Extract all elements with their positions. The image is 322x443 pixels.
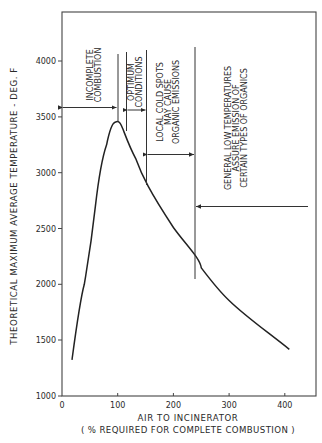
svg-text:0: 0 — [59, 401, 64, 410]
svg-text:100: 100 — [110, 401, 125, 410]
svg-text:300: 300 — [221, 401, 236, 410]
svg-text:200: 200 — [166, 401, 181, 410]
svg-text:CERTAIN TYPES OF ORGANICS: CERTAIN TYPES OF ORGANICS — [240, 68, 249, 188]
annotation-local-cold-spots: LOCAL COLD SPOTS MAY CAUSE ORGANIC EMISS… — [148, 47, 196, 279]
svg-text:400: 400 — [277, 401, 292, 410]
x-axis-tick-labels: 0 100 200 300 400 — [59, 401, 292, 410]
annotation-general-low-temperatures: GENERAL LOW TEMPERATURES ASSURE EMISSION… — [196, 66, 308, 207]
x-axis-subtitle: ( % REQUIRED FOR COMPLETE COMBUSTION ) — [81, 425, 295, 435]
annotation-optimum-conditions: OPTIMUM CONDITIONS — [127, 50, 147, 185]
temperature-curve — [72, 122, 289, 360]
svg-text:3000: 3000 — [36, 169, 56, 178]
svg-text:CONDITIONS: CONDITIONS — [135, 57, 144, 108]
svg-text:4000: 4000 — [36, 57, 56, 66]
svg-text:2500: 2500 — [36, 225, 56, 234]
y-axis-ticks — [58, 61, 62, 396]
svg-text:ORGANIC EMISSIONS: ORGANIC EMISSIONS — [172, 60, 181, 144]
temperature-chart: 1000 1500 2000 2500 3000 3500 4000 0 100… — [0, 0, 322, 443]
svg-text:COMBUSTION: COMBUSTION — [94, 48, 103, 103]
y-axis-tick-labels: 1000 1500 2000 2500 3000 3500 4000 — [36, 57, 56, 401]
y-axis-title: THEORETICAL MAXIMUM AVERAGE TEMPERATURE … — [9, 67, 19, 345]
x-axis-title: AIR TO INCINERATOR — [138, 413, 239, 423]
svg-text:3500: 3500 — [36, 113, 56, 122]
annotation-incomplete-combustion: INCOMPLETE COMBUSTION — [63, 48, 118, 122]
svg-text:2000: 2000 — [36, 280, 56, 289]
svg-text:1000: 1000 — [36, 392, 56, 401]
svg-text:1500: 1500 — [36, 336, 56, 345]
